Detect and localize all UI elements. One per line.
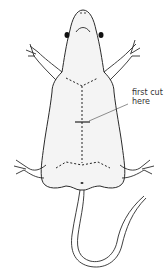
first-cut-label-line2: here [132, 97, 163, 106]
first-cut-label-line1: first cut [132, 88, 163, 97]
right-eye [99, 32, 104, 38]
body-outline [41, 10, 125, 190]
right-front-leg [104, 40, 140, 80]
left-front-leg [26, 44, 62, 80]
left-eye [65, 32, 70, 38]
tail [72, 190, 146, 267]
first-cut-label: first cut here [132, 88, 163, 106]
rat-dissection-diagram [0, 0, 167, 275]
right-hind-leg [120, 160, 154, 178]
